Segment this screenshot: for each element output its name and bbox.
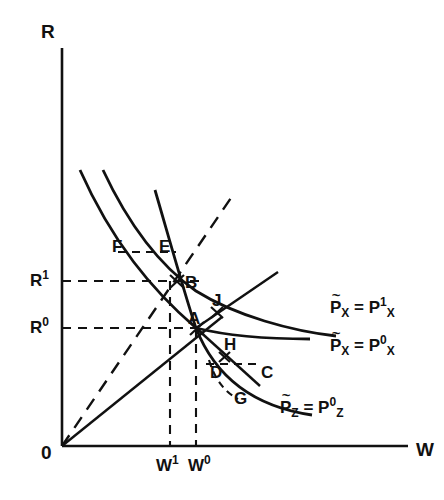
point-label-g: G	[234, 390, 247, 407]
economic-diagram: R W 0 R1 R0 W1 W0 F E B A J H D C G PX =…	[0, 0, 444, 500]
curve-pz0-sub2: Z	[336, 406, 343, 420]
curve-px1-sub2: X	[387, 306, 395, 320]
curve-label-price-z-0: PZ = P0Z	[280, 396, 343, 419]
tick-label-r0: R0	[30, 316, 49, 336]
ray-through-point-a	[196, 272, 278, 328]
tick-w0-sup: 0	[204, 453, 211, 467]
curve-pz0-eq: =	[303, 398, 313, 417]
curve-pz0-sub: Z	[291, 406, 298, 420]
y-axis-label: R	[41, 22, 55, 41]
point-label-c: C	[261, 364, 273, 381]
tick-r1-base: R	[30, 271, 42, 290]
curve-px1-base2: P	[369, 298, 380, 317]
point-label-d: D	[210, 364, 222, 381]
tick-w0-base: W	[188, 456, 204, 475]
x-axis-label: W	[416, 440, 434, 459]
point-label-b: B	[185, 274, 197, 291]
point-label-j: J	[212, 292, 221, 309]
curve-pz0-base2: P	[318, 398, 329, 417]
tick-r1-sup: 1	[42, 268, 49, 282]
origin-label: 0	[41, 443, 52, 462]
point-label-e: E	[159, 238, 170, 255]
curve-pz0-tilde-base: P	[280, 398, 291, 417]
curve-px0-sub2: X	[387, 344, 395, 358]
tick-label-r1: R1	[30, 269, 49, 289]
curve-label-price-x-0: PX = P0X	[330, 334, 395, 357]
curve-label-price-x-1: PX = P1X	[330, 296, 395, 319]
point-label-f: F	[112, 238, 122, 255]
curve-px1-sup2: 1	[380, 295, 387, 309]
tick-w1-base: W	[156, 456, 172, 475]
tick-r0-sup: 0	[42, 315, 49, 329]
curve-px1-sub: X	[341, 306, 349, 320]
tick-label-w0: W0	[188, 454, 211, 474]
curve-px1-tilde-base: P	[330, 298, 341, 317]
curve-px1-eq: =	[354, 298, 364, 317]
curve-px0-eq: =	[354, 336, 364, 355]
point-label-a: A	[188, 310, 200, 327]
curve-px0-base2: P	[369, 336, 380, 355]
tick-w1-sup: 1	[172, 453, 179, 467]
diagram-canvas	[0, 0, 444, 500]
curve-px0-tilde-base: P	[330, 336, 341, 355]
tick-r0-base: R	[30, 318, 42, 337]
curve-px0-sup2: 0	[380, 333, 387, 347]
tick-label-w1: W1	[156, 454, 179, 474]
curve-px0-sub: X	[341, 344, 349, 358]
point-label-h: H	[224, 336, 236, 353]
